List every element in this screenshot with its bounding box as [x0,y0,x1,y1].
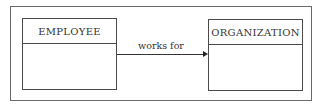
entity-organization-title: ORGANIZATION [209,20,302,45]
entity-employee: EMPLOYEE [22,18,117,90]
entity-employee-title: EMPLOYEE [23,19,116,44]
relationship-label: works for [117,40,205,51]
entity-organization: ORGANIZATION [208,19,303,91]
relationship-line [117,54,205,55]
